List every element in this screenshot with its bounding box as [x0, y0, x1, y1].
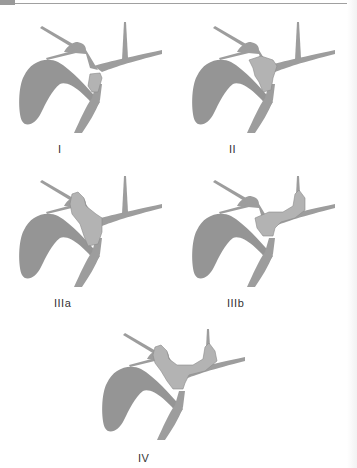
biliary-tree-illustration [14, 18, 164, 133]
panel-label-II: II [229, 143, 236, 155]
right-anterior-branch [213, 26, 253, 51]
panel-label-IV: IV [138, 452, 149, 464]
biliary-tree-illustration [97, 325, 247, 440]
right-posterior-branch [219, 50, 249, 60]
left-hepatic-duct [94, 50, 162, 72]
panel-label-IIIa: IIIa [54, 297, 71, 309]
biliary-tree-illustration [14, 172, 164, 287]
left-hepatic-duct [267, 50, 335, 72]
diagram-type-IIIa [14, 172, 164, 287]
segmental-branch-up [122, 22, 128, 60]
page-header-block [0, 0, 15, 5]
panel-label-IIIb: IIIb [227, 297, 244, 309]
segmental-branch-up [122, 176, 128, 214]
panel-label-I: I [58, 143, 62, 155]
right-posterior-branch [46, 50, 76, 60]
diagram-type-I [14, 18, 164, 133]
right-anterior-branch [213, 180, 253, 205]
biliary-tree-illustration [187, 172, 337, 287]
page-header-rule [15, 3, 357, 4]
diagram-type-IIIb [187, 172, 337, 287]
left-hepatic-duct [94, 204, 162, 226]
tumor-region [153, 343, 217, 389]
right-posterior-branch [219, 204, 249, 214]
segmental-branch-up [295, 22, 301, 60]
right-hepatic-duct [64, 42, 98, 70]
diagram-type-II [187, 18, 337, 133]
right-anterior-branch [40, 26, 80, 51]
diagram-type-IV [97, 325, 247, 440]
page-edge-shadow [347, 0, 357, 468]
biliary-tree-illustration [187, 18, 337, 133]
